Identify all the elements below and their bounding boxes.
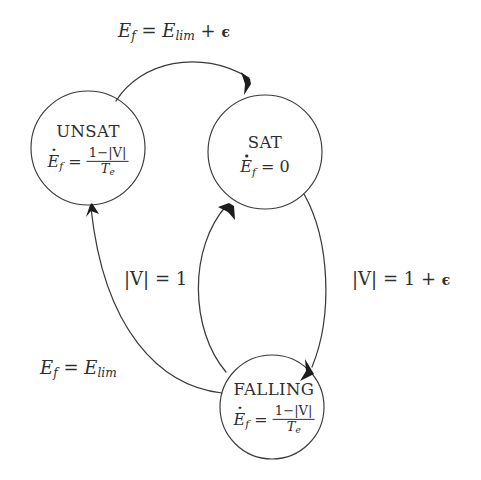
transition-label-sat-to-falling: |V| = 1 + ϵ [352, 270, 450, 288]
e-dot-falling: E [234, 410, 246, 429]
state-label-sat: SAT Ef = 0 [240, 133, 290, 178]
state-label-unsat: UNSAT Ef = 1−|V|Te [48, 122, 129, 178]
arrowhead-falling-to-sat [218, 203, 235, 220]
edge-unsat-to-sat[interactable] [116, 62, 249, 101]
arrowhead-unsat-to-sat [241, 72, 251, 95]
state-name-unsat: UNSAT [48, 122, 129, 141]
state-equation-falling: Ef = 1−|V|Te [234, 404, 315, 436]
state-name-sat: SAT [240, 133, 290, 152]
fraction-denominator-falling: Te [273, 420, 315, 437]
edge-sat-to-falling[interactable] [304, 194, 326, 367]
fraction-falling: 1−|V|Te [273, 404, 315, 436]
transition-label-falling-to-sat: |V| = 1 [124, 270, 187, 288]
fraction-denominator-unsat: Te [87, 162, 129, 179]
e-dot-unsat: E [48, 152, 60, 171]
transition-label-falling-to-unsat: Ef = Elim [40, 359, 117, 380]
state-equation-unsat: Ef = 1−|V|Te [48, 146, 129, 178]
transition-label-unsat-to-sat: Ef = Elim + ϵ [118, 22, 230, 43]
edge-falling-to-sat[interactable] [198, 205, 227, 372]
state-name-falling: FALLING [234, 380, 315, 399]
state-equation-sat: Ef = 0 [240, 157, 290, 178]
fraction-unsat: 1−|V|Te [87, 146, 129, 178]
state-machine-diagram: UNSAT Ef = 1−|V|Te SAT Ef = 0 FALLING Ef… [0, 0, 481, 480]
e-dot-sat: E [240, 157, 252, 176]
state-label-falling: FALLING Ef = 1−|V|Te [234, 380, 315, 436]
